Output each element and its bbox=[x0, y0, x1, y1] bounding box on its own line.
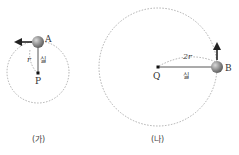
ball-a bbox=[32, 36, 44, 48]
string-label-a: 실 bbox=[40, 55, 46, 64]
ball-b bbox=[211, 61, 223, 73]
center-point-p bbox=[37, 72, 40, 75]
center-point-q bbox=[157, 66, 160, 69]
radius-label-2r: 2r bbox=[182, 52, 193, 61]
ball-label-a: A bbox=[44, 34, 52, 44]
figure-na: B 2r 실 Q (나) bbox=[99, 8, 232, 144]
center-label-p: P bbox=[35, 76, 41, 86]
string-label-b: 실 bbox=[183, 71, 189, 80]
ball-label-b: B bbox=[225, 63, 232, 73]
center-label-q: Q bbox=[153, 71, 160, 81]
figure-ga: A r 실 P (가) bbox=[7, 34, 69, 144]
caption-na: (나) bbox=[151, 135, 164, 144]
circular-motion-diagram: A r 실 P (가) B 2r 실 Q (나) bbox=[0, 0, 239, 155]
caption-ga: (가) bbox=[32, 135, 45, 144]
